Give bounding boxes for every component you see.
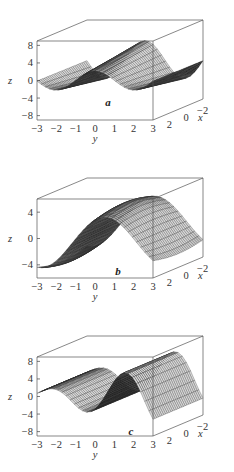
x-axis-label: x [197,428,203,439]
z-tick-label: 8 [28,356,33,367]
surface-plot-a: −8−4048z−3−2−10123y20−2xa [0,0,234,156]
y-tick-label: 1 [112,281,117,292]
y-tick-label: 1 [112,123,117,134]
x-tick-label: 2 [167,435,172,446]
plot-canvas-c: −8−4048z−3−2−10123y20−2xc [0,316,234,472]
z-tick-label: −4 [22,259,34,270]
y-tick-label: 3 [150,281,155,292]
y-axis-label: y [92,291,98,302]
z-tick-label: 8 [28,40,33,51]
y-axis-label: y [92,133,98,144]
y-tick-label: −3 [31,439,42,450]
x-axis-label: x [197,270,203,281]
x-tick-label: 2 [167,277,172,288]
x-tick-label: 0 [183,428,188,439]
y-tick-label: −3 [31,281,42,292]
z-tick-label: 0 [28,391,33,402]
z-axis-label: z [7,391,12,402]
plot-canvas-a: −8−4048z−3−2−10123y20−2xa [0,0,234,156]
y-tick-label: 2 [131,281,136,292]
surface-mesh [37,196,203,268]
y-tick-label: −1 [70,439,81,450]
panel-label: a [105,96,111,108]
y-tick-label: −2 [51,439,62,450]
x-tick-label: 0 [183,270,188,281]
panel-label: c [129,425,134,437]
y-tick-label: 1 [112,439,117,450]
z-tick-label: −8 [22,426,33,437]
plot-canvas-b: −404z−3−2−10123y20−2xb [0,158,234,314]
x-tick-label: 0 [183,112,188,123]
surface-plot-c: −8−4048z−3−2−10123y20−2xc [0,316,234,472]
y-tick-label: −3 [31,123,42,134]
z-tick-label: 0 [28,75,33,86]
y-tick-label: −1 [70,281,81,292]
surface-mesh [37,352,203,420]
surface-plot-b: −404z−3−2−10123y20−2xb [0,158,234,314]
y-tick-label: 3 [150,439,155,450]
z-axis-label: z [7,75,12,86]
y-tick-label: 2 [131,123,136,134]
surface-mesh [37,41,203,90]
z-axis-label: z [7,233,12,244]
z-tick-label: −4 [22,409,34,420]
z-tick-label: 4 [28,207,34,218]
figure: −8−4048z−3−2−10123y20−2xa −404z−3−2−1012… [0,0,234,472]
z-tick-label: 0 [28,233,33,244]
z-tick-label: −8 [22,110,33,121]
y-axis-label: y [92,449,98,460]
y-tick-label: 2 [131,439,136,450]
z-tick-label: 4 [28,57,34,68]
z-tick-label: −4 [22,93,34,104]
y-tick-label: 3 [150,123,155,134]
x-axis-label: x [197,112,203,123]
panel-label: b [115,265,121,277]
x-tick-label: 2 [167,119,172,130]
y-tick-label: −2 [51,123,62,134]
z-tick-label: 4 [28,373,34,384]
y-tick-label: −2 [51,281,62,292]
y-tick-label: −1 [70,123,81,134]
